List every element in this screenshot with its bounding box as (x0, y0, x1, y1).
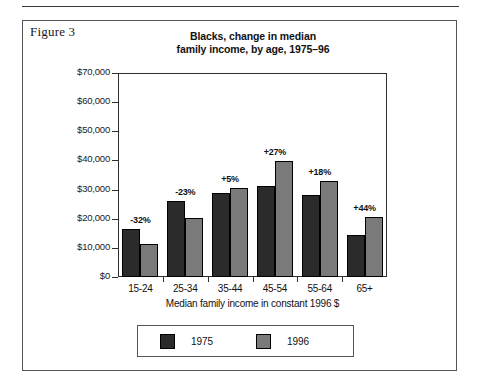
bar-group-percent-label: +5% (206, 174, 254, 184)
bar-1975-25-34 (167, 201, 185, 277)
chart-title-line-2: family income, by age, 1975–96 (118, 43, 388, 56)
y-axis-tick-label: $30,000 (77, 183, 110, 194)
x-axis-label-65+: 65+ (342, 283, 387, 294)
bar-1996-65+ (365, 217, 383, 277)
chart-title-line-1: Blacks, change in median (118, 30, 388, 43)
y-axis-tick-mark (112, 277, 118, 278)
bar-group: -23% (163, 73, 208, 277)
x-axis-tick-mark (253, 277, 254, 282)
legend-swatch-1996-icon (256, 334, 271, 349)
y-axis-tick-label: $50,000 (77, 124, 110, 135)
legend-swatch-1975-icon (160, 334, 175, 349)
chart-title: Blacks, change in median family income, … (118, 30, 388, 56)
plot-wrap: -32%-23%+5%+27%+18%+44% (118, 73, 387, 277)
bar-1975-45-54 (257, 186, 275, 277)
x-axis-label-15-24: 15-24 (118, 283, 163, 294)
bar-group-percent-label: +44% (341, 203, 389, 213)
y-axis-tick-label: $60,000 (77, 95, 110, 106)
y-axis-tick-label: $10,000 (77, 241, 110, 252)
x-axis-tick-mark (163, 277, 164, 282)
y-axis: $0$10,000$20,000$30,000$40,000$50,000$60… (0, 73, 118, 277)
bar-group-percent-label: -23% (161, 187, 209, 197)
bar-1975-35-44 (212, 193, 230, 278)
figure-label: Figure 3 (30, 24, 75, 40)
x-axis-label-55-64: 55-64 (297, 283, 342, 294)
legend-label-1996: 1996 (287, 336, 309, 347)
legend-item-1996: 1996 (256, 334, 309, 349)
bar-1975-65+ (347, 235, 365, 277)
bar-1996-25-34 (185, 218, 203, 277)
top-divider-rule (22, 6, 459, 7)
bar-group-percent-label: -32% (116, 215, 164, 225)
x-axis-title: Median family income in constant 1996 $ (100, 298, 405, 309)
bars-layer: -32%-23%+5%+27%+18%+44% (118, 73, 387, 277)
figure-page: Figure 3 Blacks, change in median family… (0, 0, 481, 385)
bar-group: +27% (253, 73, 298, 277)
x-axis-category-labels: 15-2425-3435-4445-5455-6465+ (118, 283, 387, 297)
legend-item-1975: 1975 (160, 334, 213, 349)
x-axis-tick-mark (208, 277, 209, 282)
chart-legend: 1975 1996 (137, 325, 354, 357)
bar-1996-15-24 (140, 244, 158, 277)
legend-label-1975: 1975 (191, 336, 213, 347)
y-axis-tick-label: $40,000 (77, 153, 110, 164)
x-axis-label-45-54: 45-54 (253, 283, 298, 294)
bar-group: -32% (118, 73, 163, 277)
x-axis-label-35-44: 35-44 (208, 283, 253, 294)
y-axis-tick-label: $0 (100, 270, 110, 281)
bar-1975-15-24 (122, 229, 140, 277)
bar-1996-45-54 (275, 161, 293, 277)
bar-group-percent-label: +27% (251, 147, 299, 157)
x-axis-label-25-34: 25-34 (163, 283, 208, 294)
bar-1996-35-44 (230, 188, 248, 277)
y-axis-tick-label: $20,000 (77, 212, 110, 223)
bar-group: +5% (208, 73, 253, 277)
y-axis-tick-label: $70,000 (77, 66, 110, 77)
bar-group: +18% (297, 73, 342, 277)
x-axis-tick-mark (297, 277, 298, 282)
bar-group-percent-label: +18% (296, 167, 344, 177)
bar-1975-55-64 (302, 195, 320, 277)
bar-1996-55-64 (320, 181, 338, 277)
bar-group: +44% (342, 73, 387, 277)
x-axis-tick-mark (342, 277, 343, 282)
